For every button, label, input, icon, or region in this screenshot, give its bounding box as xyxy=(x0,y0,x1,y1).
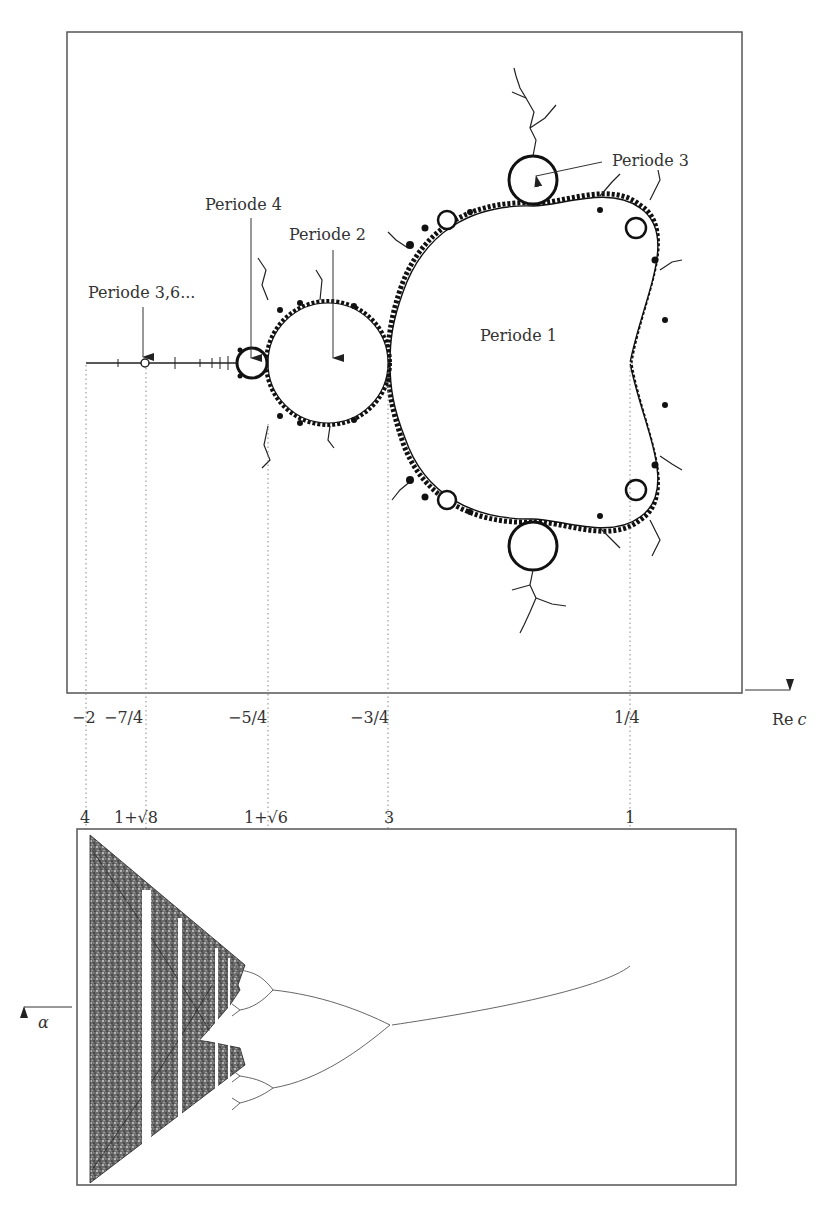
bifurcation-panel: 4 1+√8 1+√6 3 1 xyxy=(24,808,736,1185)
figure-canvas: Periode 1 Periode 2 Periode 3 Periode 4 … xyxy=(0,0,840,1215)
svg-text:−2: −2 xyxy=(72,708,96,727)
period-3-minibrot xyxy=(141,359,149,367)
svg-text:1: 1 xyxy=(625,808,635,827)
label-periode-3: Periode 3 xyxy=(612,151,689,170)
label-periode-3-6: Periode 3,6... xyxy=(88,283,195,302)
period-3-bulb-bottom xyxy=(509,522,557,570)
alpha-ticks: 4 1+√8 1+√6 3 1 xyxy=(80,808,635,827)
label-periode-2: Periode 2 xyxy=(289,225,366,244)
mandelbrot-set xyxy=(86,68,682,633)
label-periode-1: Periode 1 xyxy=(480,326,557,345)
re-c-axis-label: Rec xyxy=(772,710,807,729)
main-cardioid xyxy=(390,197,658,528)
period-4-disk xyxy=(237,348,267,378)
svg-text:3: 3 xyxy=(384,808,394,827)
svg-text:−3/4: −3/4 xyxy=(350,708,389,727)
alpha-axis-label: α xyxy=(38,1013,49,1032)
svg-text:1+√8: 1+√8 xyxy=(114,808,158,827)
svg-text:1+√6: 1+√6 xyxy=(244,808,288,827)
svg-text:−7/4: −7/4 xyxy=(104,708,143,727)
label-periode-4: Periode 4 xyxy=(205,195,282,214)
period-3-bulb-top xyxy=(509,156,557,204)
mandelbrot-panel: Periode 1 Periode 2 Periode 3 Periode 4 … xyxy=(67,32,807,729)
svg-text:−5/4: −5/4 xyxy=(228,708,267,727)
period-2-disk xyxy=(268,303,388,423)
re-c-ticks: −2 −7/4 −5/4 −3/4 1/4 xyxy=(72,708,640,727)
svg-text:4: 4 xyxy=(80,808,90,827)
svg-text:1/4: 1/4 xyxy=(614,708,640,727)
